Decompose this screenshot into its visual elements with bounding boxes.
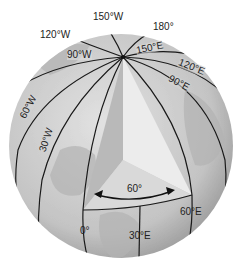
label-90w: 90°W [67,50,92,60]
label-0: 0° [80,226,90,236]
label-150w: 150°W [93,12,123,22]
north-pole-dot [121,55,125,59]
label-180: 180° [153,22,174,32]
label-120w: 120°W [40,30,70,40]
globe-svg [0,0,240,266]
label-60-degrees: 60° [127,184,142,194]
globe-diagram: 150°W 180° 120°W 90°W 150°E 120°E 90°E 6… [0,0,240,266]
label-60e: 60°E [180,207,202,217]
label-30e: 30°E [129,231,151,241]
